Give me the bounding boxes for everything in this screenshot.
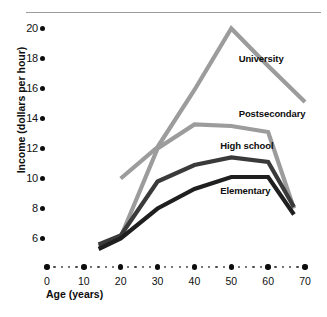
x-axis-tick-dot (302, 264, 307, 269)
series-annotation-high-school: High school (220, 140, 273, 151)
x-axis-tick-dot (192, 264, 197, 269)
x-axis-tick-label: 70 (293, 275, 317, 287)
x-axis-minor-dot (142, 266, 144, 268)
y-axis-tick-dot (40, 176, 45, 181)
y-axis-tick-label: 8 (14, 202, 38, 214)
chart-figure: Income (dollars per hour) Age (years) 20… (0, 0, 327, 317)
y-axis-tick-label: 6 (14, 232, 38, 244)
y-axis-tick-label: 16 (14, 82, 38, 94)
series-annotation-postsecondary: Postsecondary (239, 108, 306, 119)
x-axis-minor-dot (97, 266, 99, 268)
x-axis-minor-dot (179, 266, 181, 268)
x-axis-tick-label: 50 (219, 275, 243, 287)
x-axis-tick-label: 60 (256, 275, 280, 287)
y-axis-tick-label: 20 (14, 22, 38, 34)
y-axis-tick-dot (40, 206, 45, 211)
x-axis-minor-dot (53, 266, 55, 268)
x-axis-minor-dot (238, 266, 240, 268)
x-axis-minor-dot (201, 266, 203, 268)
x-axis-minor-dot (215, 266, 217, 268)
series-annotation-elementary: Elementary (220, 185, 270, 196)
x-axis-tick-dot (155, 264, 160, 269)
x-axis-minor-dot (260, 266, 262, 268)
x-axis-minor-dot (134, 266, 136, 268)
x-axis-tick-label: 0 (35, 275, 59, 287)
x-axis-minor-dot (61, 266, 63, 268)
y-axis-tick-label: 18 (14, 52, 38, 64)
x-axis-minor-dot (252, 266, 254, 268)
x-axis-tick-dot (44, 264, 49, 269)
y-axis-tick-label: 10 (14, 172, 38, 184)
x-axis-minor-dot (296, 266, 298, 268)
x-axis-minor-dot (274, 266, 276, 268)
x-axis-minor-dot (75, 266, 77, 268)
line-chart-plot-area (0, 0, 327, 317)
y-axis-tick-dot (40, 86, 45, 91)
x-axis-title: Age (years) (46, 288, 103, 300)
x-axis-tick-label: 10 (72, 275, 96, 287)
series-annotation-university: University (239, 53, 284, 64)
y-axis-tick-label: 14 (14, 112, 38, 124)
x-axis-tick-dot (229, 264, 234, 269)
y-axis-tick-dot (40, 56, 45, 61)
x-axis-tick-dot (265, 264, 270, 269)
y-axis-tick-dot (40, 116, 45, 121)
x-axis-tick-label: 30 (146, 275, 170, 287)
y-axis-tick-dot (40, 26, 45, 31)
x-axis-tick-label: 40 (182, 275, 206, 287)
x-axis-tick-dot (81, 264, 86, 269)
y-axis-tick-label: 12 (14, 142, 38, 154)
y-axis-tick-dot (40, 146, 45, 151)
y-axis-tick-dot (40, 236, 45, 241)
x-axis-tick-label: 20 (109, 275, 133, 287)
x-axis-tick-dot (118, 264, 123, 269)
